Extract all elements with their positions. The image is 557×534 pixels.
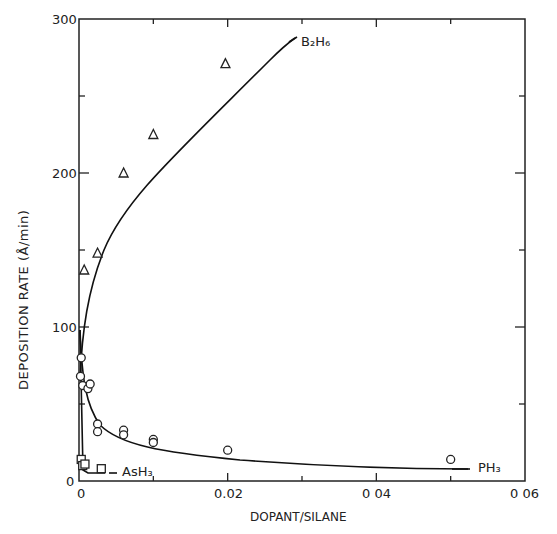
ph3-point <box>94 420 102 428</box>
ash3-point <box>81 460 89 468</box>
ph3-point <box>120 431 128 439</box>
b2h6-curve <box>80 38 295 380</box>
b2h6-point <box>93 248 102 257</box>
x-tick-0.06: 0 06 <box>510 486 539 501</box>
ash3-point <box>97 465 105 473</box>
ph3-point <box>86 380 94 388</box>
ph3-point <box>149 439 157 447</box>
ph3-point <box>77 354 85 362</box>
ph3-point <box>447 455 455 463</box>
ph3-label: PH₃ <box>478 460 501 475</box>
ash3-label: AsH₃ <box>122 464 153 479</box>
x-tick-0: 0 <box>77 486 85 501</box>
y-tick-0: 0 <box>66 474 74 489</box>
x-tick-0.04: 0 04 <box>362 486 391 501</box>
data-markers <box>76 59 454 473</box>
ash3-curve <box>80 330 105 473</box>
b2h6-point <box>80 265 89 274</box>
b2h6-point <box>221 59 230 68</box>
b2h6-point <box>119 168 128 177</box>
ph3-point <box>224 446 232 454</box>
y-axis-label: DEPOSITION RATE (Å/min) <box>16 210 31 390</box>
ph3-curve <box>80 330 468 469</box>
y-tick-300: 300 <box>52 12 77 27</box>
x-tick-0.02: 0.02 <box>214 486 243 501</box>
y-tick-100: 100 <box>52 320 77 335</box>
fit-curves <box>80 37 470 473</box>
axis-ticks <box>79 19 525 481</box>
y-tick-200: 200 <box>52 166 77 181</box>
ph3-point <box>76 372 84 380</box>
ph3-point <box>94 428 102 436</box>
b2h6-leader <box>289 37 297 42</box>
chart-figure: 300 200 100 0 0 0.02 0 04 0 06 DOPANT/SI… <box>0 0 557 534</box>
b2h6-point <box>149 130 158 139</box>
b2h6-label: B₂H₆ <box>301 34 330 49</box>
plot-area <box>0 0 557 534</box>
x-axis-label: DOPANT/SILANE <box>250 510 347 524</box>
axes-frame <box>79 19 525 481</box>
